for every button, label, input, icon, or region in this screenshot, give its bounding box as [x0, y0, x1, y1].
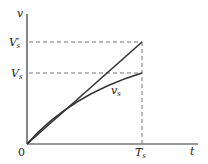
linear-line — [27, 42, 142, 144]
ts-label: Ts — [135, 147, 146, 160]
x-axis-label: t — [190, 146, 194, 157]
vs-label: Vs — [11, 68, 23, 81]
curve-label: vs — [111, 85, 121, 98]
origin-label: 0 — [18, 147, 25, 158]
vs-curve — [27, 73, 142, 144]
velocity-diagram — [0, 0, 208, 164]
vs-prime-label: V′s — [9, 37, 20, 50]
y-axis-label: v — [17, 8, 23, 19]
